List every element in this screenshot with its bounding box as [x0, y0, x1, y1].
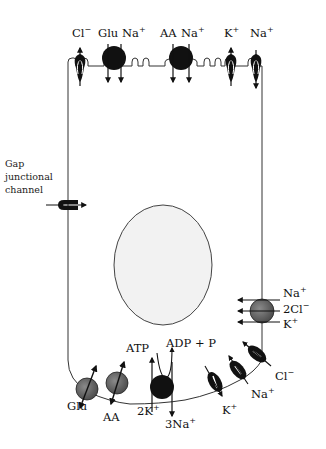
apical-cl-channel	[75, 48, 86, 86]
nkcc-cl-label: 2Cl−	[283, 301, 310, 316]
apical-na2-label: Na+	[181, 25, 205, 40]
basal-aa-transporter	[106, 362, 128, 404]
basal-na-label: Na+	[251, 386, 275, 401]
nkcc-na-label: Na+	[283, 285, 307, 300]
gap-junctional-channel	[46, 200, 86, 210]
gap-label-line3: channel	[5, 184, 43, 195]
apical-glu-na-cotransporter	[102, 44, 126, 82]
basal-na-channel	[226, 356, 249, 384]
basal-3na-label: 3Na+	[165, 416, 196, 431]
basal-aa-label: AA	[102, 410, 120, 424]
basal-glu-label: Glu	[67, 399, 87, 413]
basal-k-label: K+	[222, 402, 237, 417]
nucleus	[114, 205, 212, 325]
adp-label: ADP + P	[165, 336, 216, 350]
nkcc-k-label: K+	[283, 316, 298, 331]
atp-label: ATP	[125, 341, 149, 355]
apical-k-label: K+	[224, 25, 239, 40]
apical-k-channel	[226, 48, 237, 86]
apical-cl-label: Cl−	[72, 25, 91, 40]
nkcc-cotransporter	[238, 299, 280, 323]
apical-aa-na-cotransporter	[169, 44, 193, 82]
apical-na1-label: Na+	[122, 25, 146, 40]
gap-label-line1: Gap	[5, 158, 24, 169]
cell-transport-diagram: Cl− Glu Na+ AA Na+ K+ Na+ Gap junctional…	[0, 0, 326, 449]
apical-na-channel	[251, 50, 262, 88]
basal-2k-label: 2K+	[137, 403, 160, 418]
apical-glu-label: Glu	[98, 26, 118, 40]
apical-na3-label: Na+	[250, 25, 274, 40]
gap-label-line2: junctional	[4, 171, 53, 182]
apical-aa-label: AA	[159, 26, 177, 40]
basal-cl-channel	[243, 342, 271, 366]
basal-cl-label: Cl−	[275, 368, 294, 383]
